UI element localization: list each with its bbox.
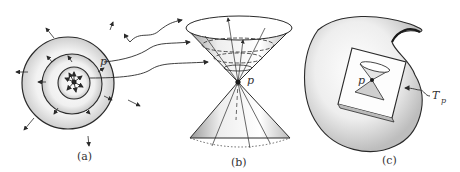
connector-outer-back [127,36,130,42]
panel-a: p (a) [16,22,140,163]
caption-a: (a) [77,150,92,163]
tangent-subscript: p [441,96,446,105]
past-cone [190,82,290,138]
tangent-label: T [432,89,441,102]
light-cone-figure: p (a) p (b) [0,0,460,172]
future-cone-rim [186,16,292,40]
point-p-dot-c [370,78,374,82]
panel-c: p T p (c) [305,16,447,167]
panel-b: p (b) [186,16,292,169]
caption-c: (c) [382,154,397,167]
connector-outer [130,20,182,42]
point-p-label-c: p [358,74,365,87]
point-p-label-b: p [247,74,254,87]
past-cone-base [190,138,290,147]
connector-middle [104,42,190,62]
point-p-dot-b [235,79,240,84]
caption-b: (b) [231,156,247,169]
